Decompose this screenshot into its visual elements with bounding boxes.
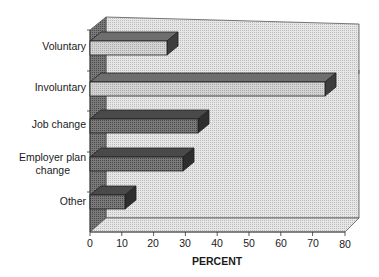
x-tick-80: 80 [335, 238, 355, 250]
x-tick-40: 40 [207, 237, 227, 249]
x-tick-0: 0 [80, 237, 100, 249]
bar-voluntary [90, 32, 178, 55]
bar-job-change [90, 110, 209, 133]
bar-employer-plan-change [90, 148, 194, 171]
x-tick-30: 30 [175, 237, 195, 249]
bar-involuntary [90, 73, 336, 96]
category-label-employer-plan-change-line1: Employer plan [0, 151, 86, 163]
x-axis [90, 232, 345, 236]
x-tick-50: 50 [239, 237, 259, 249]
category-label-job-change: Job change [0, 118, 86, 130]
bar-other [90, 186, 136, 209]
x-tick-70: 70 [303, 237, 323, 249]
edge-mark [358, 70, 360, 74]
x-tick-60: 60 [271, 237, 291, 249]
category-label-other: Other [0, 195, 86, 207]
y-axis [87, 30, 90, 232]
category-label-voluntary: Voluntary [0, 40, 86, 52]
category-label-employer-plan-change-line2: change [0, 164, 70, 176]
floor [90, 218, 359, 232]
category-label-involuntary: Involuntary [0, 81, 86, 93]
x-tick-20: 20 [143, 237, 163, 249]
x-axis-title: PERCENT [192, 255, 242, 267]
x-tick-10: 10 [112, 237, 132, 249]
